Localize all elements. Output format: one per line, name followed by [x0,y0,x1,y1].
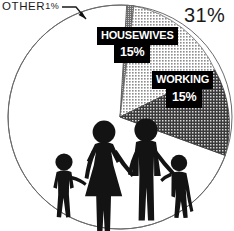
pie-chart-figure: OTHER1% 31% HOUSEWIVES 15% WORKING 15% [0,0,234,231]
other-slice-callout-label: OTHER1% [2,0,59,12]
group-total-label: 31% [184,4,225,27]
working-slice-value: 15% [166,88,202,108]
other-callout-value: 1% [45,1,59,11]
housewives-slice-value: 15% [114,43,150,63]
working-slice-label: WORKING [152,71,213,89]
other-callout-name: OTHER [2,0,45,12]
